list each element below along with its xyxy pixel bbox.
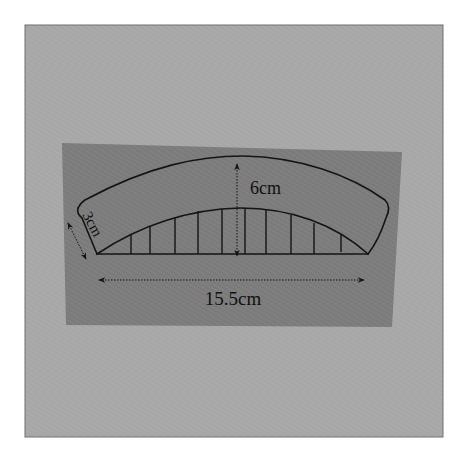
width-label: 15.5cm (205, 288, 262, 309)
diagram-figure: 6cm 15.5cm 3cm (0, 0, 463, 451)
height-label: 6cm (250, 178, 281, 198)
diagram-canvas: 6cm 15.5cm 3cm (0, 0, 463, 451)
